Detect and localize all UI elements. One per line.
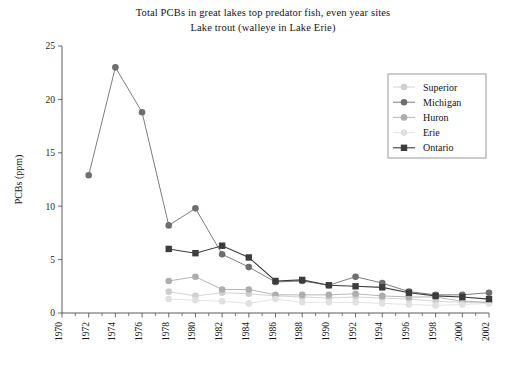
data-point — [379, 284, 385, 290]
y-tick-label: 25 — [46, 41, 56, 51]
x-tick-label: 1976 — [134, 322, 144, 341]
legend-label: Ontario — [423, 142, 454, 153]
legend: SuperiorMichiganHuronErieOntario — [388, 74, 486, 158]
series-line-ontario — [169, 246, 489, 299]
legend-marker — [401, 129, 408, 136]
data-point — [326, 282, 332, 288]
data-point — [459, 294, 465, 300]
data-point — [352, 290, 359, 297]
data-point — [165, 296, 172, 303]
x-tick-label: 1978 — [161, 322, 171, 341]
x-tick-label: 1992 — [348, 322, 358, 341]
data-point — [432, 302, 439, 309]
data-point — [192, 273, 199, 280]
data-point — [379, 293, 386, 300]
data-point — [246, 254, 252, 260]
legend-label: Erie — [423, 127, 440, 138]
legend-marker — [401, 145, 407, 151]
legend-marker — [401, 99, 408, 106]
legend-label: Huron — [423, 112, 449, 123]
legend-label: Michigan — [423, 97, 461, 108]
x-tick-label: 1984 — [241, 322, 251, 341]
y-tick-label: 0 — [50, 308, 55, 318]
data-point — [219, 251, 226, 258]
data-point — [406, 290, 412, 296]
x-tick-label: 1988 — [294, 322, 304, 341]
x-tick-label: 2000 — [454, 322, 464, 341]
data-point — [406, 301, 413, 308]
y-tick-label: 15 — [46, 148, 56, 158]
data-point — [352, 283, 358, 289]
data-point — [272, 278, 278, 284]
data-point — [352, 299, 359, 306]
data-point — [246, 300, 253, 307]
data-point — [165, 222, 172, 229]
data-point — [85, 172, 92, 179]
x-tick-label: 2002 — [481, 322, 491, 341]
legend-label: Superior — [423, 82, 458, 93]
data-point — [299, 299, 306, 306]
x-tick-label: 1974 — [107, 322, 117, 341]
chart-plot: 0510152025PCBs (ppm)19701972197419761978… — [0, 0, 526, 366]
data-point — [166, 246, 172, 252]
data-point — [352, 273, 359, 280]
data-point — [192, 250, 198, 256]
chart-container: Total PCBs in great lakes top predator f… — [0, 0, 526, 366]
x-tick-label: 1994 — [374, 322, 384, 341]
legend-marker — [401, 114, 408, 121]
y-tick-label: 10 — [46, 202, 56, 212]
x-tick-label: 1980 — [187, 322, 197, 341]
y-axis-title: PCBs (ppm) — [13, 155, 25, 205]
x-tick-label: 1982 — [214, 322, 224, 341]
data-point — [326, 299, 333, 306]
data-point — [272, 296, 279, 303]
x-tick-label: 1990 — [321, 322, 331, 341]
data-point — [112, 64, 119, 71]
data-point — [192, 205, 199, 212]
data-point — [299, 292, 306, 299]
data-point — [219, 243, 225, 249]
data-point — [486, 289, 493, 296]
data-point — [326, 292, 333, 299]
data-point — [299, 277, 305, 283]
x-tick-label: 1996 — [401, 322, 411, 341]
data-point — [139, 109, 146, 116]
x-tick-label: 1972 — [81, 322, 91, 341]
data-point — [246, 264, 253, 271]
data-point — [219, 298, 226, 305]
y-tick-label: 5 — [50, 255, 55, 265]
data-point — [379, 300, 386, 307]
data-point — [192, 297, 199, 304]
data-point — [219, 286, 226, 293]
data-point — [246, 286, 253, 293]
x-tick-label: 1986 — [268, 322, 278, 341]
data-point — [165, 288, 172, 295]
y-tick-label: 20 — [46, 95, 56, 105]
x-tick-label: 1998 — [428, 322, 438, 341]
data-point — [432, 293, 438, 299]
legend-marker — [401, 84, 408, 91]
x-tick-label: 1970 — [54, 322, 64, 341]
data-point — [165, 278, 172, 285]
data-point — [459, 301, 466, 308]
data-point — [486, 296, 492, 302]
